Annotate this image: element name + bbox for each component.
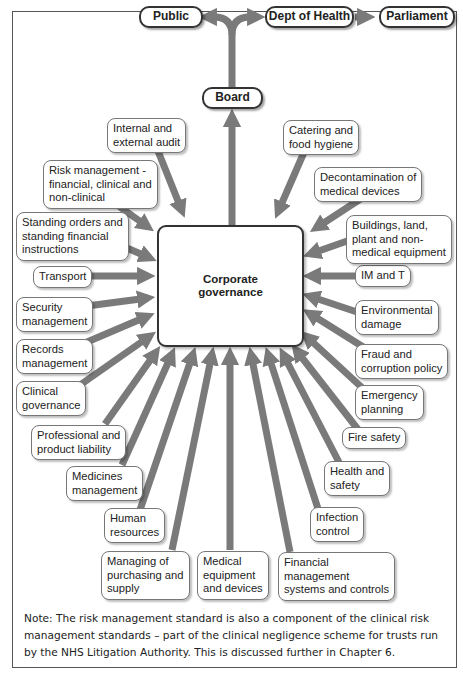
node-standing-orders: Standing orders and standing financial i…: [16, 212, 129, 261]
node-risk-management: Risk management - financial, clinical an…: [43, 160, 158, 209]
node-fire-safety: Fire safety: [342, 427, 406, 449]
node-managing-purchasing-supply: Managing of purchasing and supply: [101, 551, 190, 600]
node-public: Public: [139, 6, 203, 28]
node-infection-control: Infection control: [310, 507, 364, 542]
node-transport: Transport: [33, 266, 92, 288]
node-catering-food-hygiene: Catering and food hygiene: [283, 120, 359, 155]
arrow-board-to-public: [206, 17, 232, 88]
node-internal-external-audit: Internal and external audit: [107, 118, 186, 153]
node-financial-management: Financial management systems and control…: [278, 552, 395, 601]
figure-note: Note: The risk management standard is al…: [24, 610, 449, 661]
node-decontamination: Decontamination of medical devices: [314, 167, 422, 202]
node-security-management: Security management: [16, 297, 93, 332]
node-clinical-governance: Clinical governance: [16, 381, 86, 416]
node-im-and-t: IM and T: [355, 265, 411, 287]
center-label: Corporate governance: [198, 273, 263, 299]
node-corporate-governance: Corporate governance: [157, 225, 304, 347]
node-records-management: Records management: [16, 339, 93, 374]
node-parliament: Parliament: [379, 6, 455, 28]
node-medicines-management: Medicines management: [66, 466, 143, 501]
node-health-and-safety: Health and safety: [324, 461, 390, 496]
node-buildings-land-plant: Buildings, land, plant and non- medical …: [346, 215, 452, 264]
node-fraud-corruption-policy: Fraud and corruption policy: [355, 344, 448, 379]
node-medical-equipment-devices: Medical equipment and devices: [197, 551, 269, 600]
node-dept-of-health: Dept of Health: [265, 6, 354, 28]
node-board: Board: [202, 87, 263, 109]
node-emergency-planning: Emergency planning: [355, 385, 424, 420]
node-professional-product-liability: Professional and product liability: [31, 425, 126, 460]
node-human-resources: Human resources: [104, 508, 165, 543]
arrow-board-to-dept: [232, 17, 258, 35]
node-environmental-damage: Environmental damage: [355, 300, 439, 335]
